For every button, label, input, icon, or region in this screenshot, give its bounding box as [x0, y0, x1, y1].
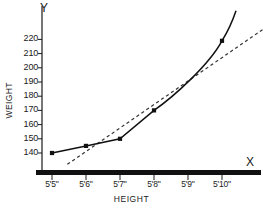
x-axis-tick-labels: 5'5"5'6"5'7"5'8"5'9"5'10" — [0, 0, 263, 212]
x-tick-label: 5'10" — [202, 180, 242, 189]
x-axis-title: HEIGHT — [0, 195, 263, 204]
weight-vs-height-chart: Y X 140150160170180190200210220 5'5"5'6"… — [0, 0, 263, 212]
y-axis-title: WEIGHT — [5, 72, 14, 128]
